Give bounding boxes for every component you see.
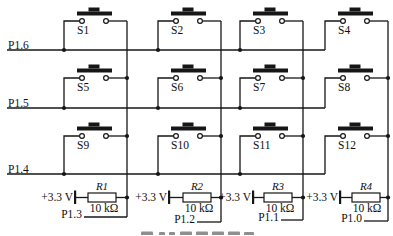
terminal-circle	[198, 134, 203, 139]
resistor-name: R2	[190, 180, 204, 192]
junction-dot	[156, 172, 160, 176]
terminal-circle	[198, 76, 203, 81]
pushbutton-cap-icon	[338, 12, 373, 16]
pin-label: P1.2	[174, 213, 195, 225]
resistor-name: R4	[359, 180, 373, 192]
terminal-circle	[198, 19, 203, 24]
caption-glyph-fragment	[180, 232, 192, 236]
switch-label: S5	[77, 81, 89, 93]
pin-label: P1.3	[61, 208, 82, 220]
keypad-matrix-schematic-figure: P1.6 P1.5 P1.4 S1 S2 S3	[0, 0, 393, 235]
caption-glyph-fragment	[196, 232, 208, 236]
pushbutton-stem-icon	[89, 65, 100, 69]
switch-label: S3	[253, 24, 265, 36]
row-label: P1.4	[8, 163, 29, 175]
pushbutton-stem-icon	[89, 8, 100, 12]
resistor-name: R1	[95, 180, 108, 192]
pushbutton-cap-icon	[253, 127, 288, 131]
pushbutton-stem-icon	[350, 123, 361, 127]
switch-label: S7	[253, 81, 265, 93]
resistor-box	[183, 193, 211, 202]
pushbutton-cap-icon	[77, 127, 112, 131]
junction-dot	[219, 76, 223, 80]
terminal-circle	[365, 19, 370, 24]
caption-glyph-fragment	[159, 232, 165, 235]
pushbutton-cap-icon	[253, 69, 288, 73]
junction-dot	[156, 48, 160, 52]
switch-label: S10	[171, 139, 189, 151]
pushbutton-cap-icon	[338, 69, 373, 73]
junction-dot	[125, 76, 129, 80]
caption-glyph-fragment	[212, 232, 224, 236]
pin-label: P1.0	[341, 212, 362, 224]
caption-glyph-fragment	[169, 232, 175, 235]
pushbutton-stem-icon	[183, 123, 194, 127]
junction-dot	[219, 134, 223, 138]
supply-label: +3.3 V	[306, 191, 339, 203]
pushbutton-stem-icon	[183, 65, 194, 69]
junction-dot	[62, 172, 66, 176]
junction-dot	[238, 172, 242, 176]
pushbutton-stem-icon	[350, 65, 361, 69]
switch-label: S6	[171, 81, 183, 93]
junction-dot	[386, 134, 390, 138]
terminal-circle	[104, 76, 109, 81]
terminal-circle	[365, 134, 370, 139]
resistor-box	[264, 193, 292, 202]
resistor-box	[88, 193, 116, 202]
switch-label: S11	[253, 139, 271, 151]
row-label: P1.5	[8, 97, 29, 109]
junction-dot	[156, 106, 160, 110]
junction-dot	[301, 134, 305, 138]
junction-dot	[125, 134, 129, 138]
pushbutton-stem-icon	[265, 65, 276, 69]
switch-label: S12	[338, 139, 356, 151]
schematic-canvas: P1.6 P1.5 P1.4 S1 S2 S3	[0, 0, 393, 235]
switch-label: S9	[77, 139, 89, 151]
pushbutton-stem-icon	[350, 8, 361, 12]
pushbutton-cap-icon	[253, 12, 288, 16]
switch-label: S8	[338, 81, 350, 93]
terminal-circle	[280, 134, 285, 139]
pushbutton-stem-icon	[265, 8, 276, 12]
junction-dot	[62, 48, 66, 52]
supply-terminal-tick	[339, 191, 341, 205]
supply-terminal-tick	[74, 191, 76, 205]
supply-label: +3.3 V	[135, 191, 168, 203]
resistor-value: 10 kΩ	[90, 202, 119, 214]
supply-label: +3.3 V	[219, 191, 252, 203]
caption-glyph-fragment	[228, 232, 240, 236]
caption-glyph-fragment	[141, 232, 153, 236]
supply-terminal-tick	[168, 191, 170, 205]
pushbutton-stem-icon	[89, 123, 100, 127]
pushbutton-cap-icon	[171, 12, 206, 16]
terminal-circle	[280, 76, 285, 81]
terminal-circle	[104, 19, 109, 24]
terminal-circle	[365, 76, 370, 81]
pushbutton-cap-icon	[171, 69, 206, 73]
terminal-circle	[280, 19, 285, 24]
resistor-box	[352, 193, 380, 202]
supply-terminal-tick	[252, 191, 254, 205]
pushbutton-cap-icon	[77, 69, 112, 73]
pushbutton-stem-icon	[183, 8, 194, 12]
junction-dot	[62, 106, 66, 110]
row-label: P1.6	[8, 39, 29, 51]
junction-dot	[301, 76, 305, 80]
terminal-circle	[104, 134, 109, 139]
junction-dot	[386, 76, 390, 80]
pushbutton-stem-icon	[265, 123, 276, 127]
junction-dot	[238, 106, 242, 110]
junction-dot	[238, 48, 242, 52]
switch-label: S2	[171, 24, 183, 36]
resistor-name: R3	[271, 180, 285, 192]
pin-label: P1.1	[258, 211, 279, 223]
pushbutton-cap-icon	[77, 12, 112, 16]
pushbutton-cap-icon	[338, 127, 373, 131]
switch-label: S4	[338, 24, 350, 36]
switch-label: S1	[77, 24, 89, 36]
pushbutton-cap-icon	[171, 127, 206, 131]
supply-label: +3.3 V	[41, 191, 74, 203]
caption-glyph-fragment	[244, 232, 254, 235]
